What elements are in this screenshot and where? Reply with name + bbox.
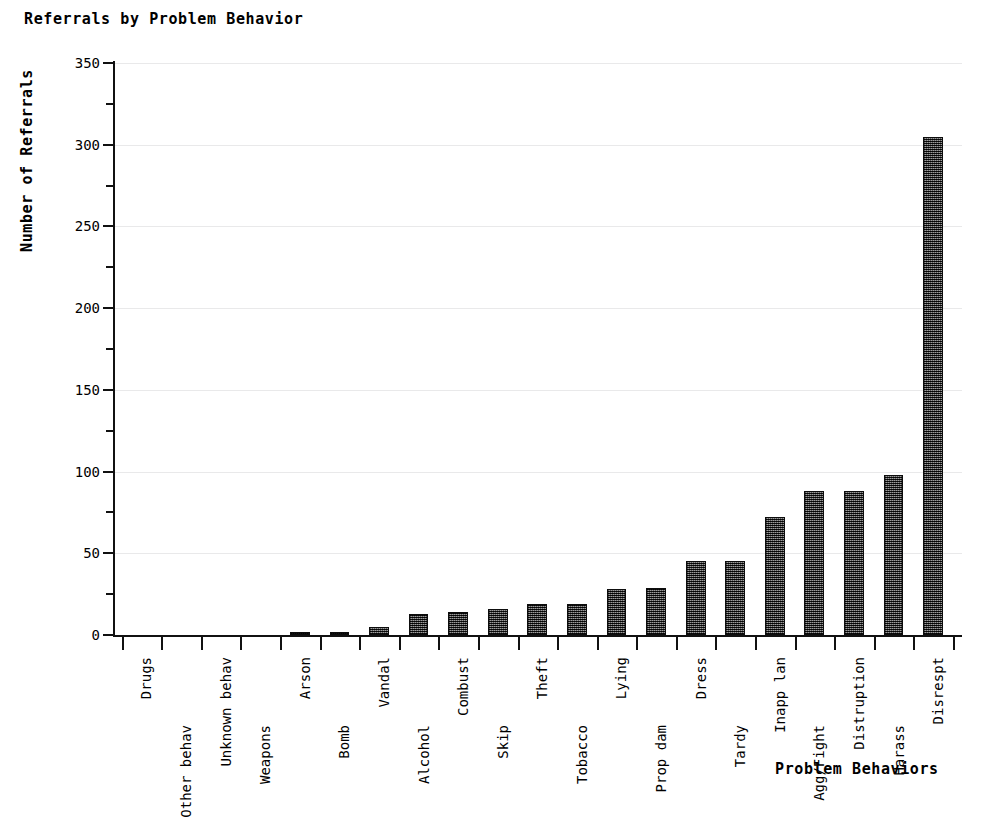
bar — [330, 632, 350, 635]
bar — [765, 517, 785, 635]
y-tick-label: 100 — [75, 465, 100, 479]
x-category-label: Prop dam — [654, 725, 668, 792]
bar — [884, 475, 904, 635]
x-tick — [834, 637, 836, 650]
y-tick-label: 0 — [92, 628, 100, 642]
y-tick-major — [103, 144, 113, 146]
x-category-label: Disrespt — [931, 657, 945, 724]
y-tick-minor — [106, 430, 113, 432]
x-category-label: Dress — [694, 657, 708, 699]
bar-chart-figure: Referrals by Problem Behavior Number of … — [0, 0, 986, 825]
x-tick — [320, 637, 322, 650]
y-tick-major — [103, 552, 113, 554]
y-axis-title: Number of Referrals — [18, 232, 36, 252]
x-category-label: Combust — [456, 657, 470, 716]
x-tick — [280, 637, 282, 650]
x-tick — [913, 637, 915, 650]
y-tick-minor — [106, 511, 113, 513]
x-category-label: Inapp lan — [773, 657, 787, 733]
x-category-label: Alcohol — [417, 725, 431, 784]
gridline — [115, 63, 962, 64]
y-tick-label: 200 — [75, 301, 100, 315]
y-tick-major — [103, 307, 113, 309]
x-category-label: Arson — [298, 657, 312, 699]
y-tick-major — [103, 471, 113, 473]
x-tick — [953, 637, 955, 650]
x-category-label: Lying — [614, 657, 628, 699]
x-axis-title: Problem Behaviors — [775, 760, 939, 778]
x-tick — [122, 637, 124, 650]
y-tick-major — [103, 225, 113, 227]
bar — [448, 612, 468, 635]
chart-title: Referrals by Problem Behavior — [24, 10, 303, 28]
x-tick — [161, 637, 163, 650]
x-category-label: Agg/Fight — [812, 725, 826, 801]
x-tick — [201, 637, 203, 650]
y-tick-label: 300 — [75, 138, 100, 152]
bar — [686, 561, 706, 635]
y-tick-minor — [106, 348, 113, 350]
x-tick — [597, 637, 599, 650]
x-tick — [874, 637, 876, 650]
x-category-label: Tobacco — [575, 725, 589, 784]
x-tick — [557, 637, 559, 650]
bar — [488, 609, 508, 635]
x-category-label: Weapons — [258, 725, 272, 784]
plot-area: 050100150200250300350 DrugsOther behavUn… — [113, 63, 962, 635]
bar — [923, 137, 943, 635]
bar — [567, 604, 587, 635]
x-category-label: Drugs — [139, 657, 153, 699]
y-tick-label: 350 — [75, 56, 100, 70]
x-tick — [399, 637, 401, 650]
gridline — [115, 226, 962, 227]
x-tick — [240, 637, 242, 650]
bar — [725, 561, 745, 635]
y-tick-major — [103, 389, 113, 391]
y-tick-label: 250 — [75, 219, 100, 233]
y-tick-minor — [106, 185, 113, 187]
y-tick-label: 50 — [83, 546, 100, 560]
y-axis-line — [113, 61, 115, 637]
x-category-label: Unknown behav — [219, 657, 233, 767]
y-tick-minor — [106, 103, 113, 105]
bar — [290, 632, 310, 635]
y-tick-major — [103, 62, 113, 64]
x-category-label: Theft — [535, 657, 549, 699]
x-category-label: Harass — [892, 725, 906, 776]
x-tick — [636, 637, 638, 650]
y-tick-major — [103, 634, 113, 636]
y-tick-minor — [106, 266, 113, 268]
x-tick — [359, 637, 361, 650]
bar — [844, 491, 864, 635]
bar — [527, 604, 547, 635]
y-tick-minor — [106, 593, 113, 595]
bar — [804, 491, 824, 635]
x-tick — [755, 637, 757, 650]
x-category-label: Bomb — [337, 725, 351, 759]
x-tick — [518, 637, 520, 650]
x-category-label: Distruption — [852, 657, 866, 750]
gridline — [115, 553, 962, 554]
x-tick — [438, 637, 440, 650]
gridline — [115, 472, 962, 473]
bar — [369, 627, 389, 635]
gridline — [115, 308, 962, 309]
x-category-label: Other behav — [179, 725, 193, 818]
gridline — [115, 390, 962, 391]
x-tick — [676, 637, 678, 650]
bar — [646, 588, 666, 635]
gridline — [115, 145, 962, 146]
x-category-label: Skip — [496, 725, 510, 759]
bar — [409, 614, 429, 635]
x-tick — [715, 637, 717, 650]
bar — [607, 589, 627, 635]
x-category-label: Vandal — [377, 657, 391, 708]
x-category-label: Tardy — [733, 725, 747, 767]
y-tick-label: 150 — [75, 383, 100, 397]
x-tick — [478, 637, 480, 650]
x-tick — [795, 637, 797, 650]
